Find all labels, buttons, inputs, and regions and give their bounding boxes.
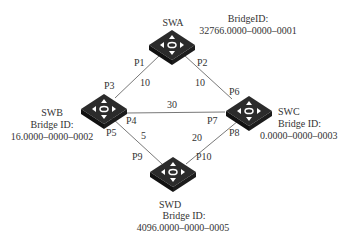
swd-bridge-label: Bridge ID: xyxy=(162,210,205,221)
switch-swa-icon xyxy=(147,28,197,66)
port-p7: P7 xyxy=(207,115,218,126)
cost-a-c: 10 xyxy=(195,77,205,88)
swa-name: SWA xyxy=(162,17,183,28)
swb-name: SWB xyxy=(41,107,63,118)
port-p1: P1 xyxy=(134,57,145,68)
cost-b-c: 30 xyxy=(167,99,177,110)
switch-swd-icon xyxy=(148,155,198,193)
swd-bridge-id: 4096.0000–0000–0005 xyxy=(137,222,230,233)
port-p4: P4 xyxy=(126,115,137,126)
cost-b-d: 5 xyxy=(141,130,146,141)
port-p8: P8 xyxy=(229,127,240,138)
port-p2: P2 xyxy=(197,57,208,68)
cost-a-b: 10 xyxy=(140,77,150,88)
swd-name: SWD xyxy=(159,199,181,210)
swb-bridge-id: 16.0000–0000–0002 xyxy=(11,131,94,142)
port-p9: P9 xyxy=(132,151,143,162)
swc-bridge-label: Bridge ID: xyxy=(278,118,321,129)
port-p3: P3 xyxy=(104,80,115,91)
swc-name: SWC xyxy=(278,106,300,117)
cost-c-d: 20 xyxy=(192,132,202,143)
switch-swb-icon xyxy=(79,92,129,130)
port-p10: P10 xyxy=(196,151,212,162)
port-p5: P5 xyxy=(106,127,117,138)
swa-bridge-id: 32766.0000–0000–0001 xyxy=(199,25,297,36)
link-b-c xyxy=(126,112,225,113)
swb-bridge-label: Bridge ID: xyxy=(30,119,73,130)
swc-bridge-id: 0.0000–0000–0003 xyxy=(260,130,338,141)
port-p6: P6 xyxy=(229,86,240,97)
swa-bridge-label: BridgeID: xyxy=(228,13,269,24)
